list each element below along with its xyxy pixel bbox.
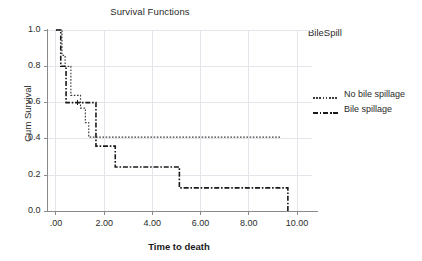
y-tick-label: 0.8 xyxy=(15,60,41,70)
x-tick-label: 2.00 xyxy=(84,218,124,228)
y-tick-label: 0.6 xyxy=(15,96,41,106)
legend-label: No bile spillage xyxy=(344,89,405,99)
x-tick-label: 8.00 xyxy=(229,218,269,228)
y-tick-label: 0.0 xyxy=(15,205,41,215)
survival-functions-chart: Survival Functions BileSpill Cum Surviva… xyxy=(0,0,422,261)
legend-item-1[interactable]: Bile spillage xyxy=(313,101,421,116)
x-tick-label: 4.00 xyxy=(132,218,172,228)
y-tick-label: 0.4 xyxy=(15,132,41,142)
legend-swatch-icon xyxy=(313,89,339,99)
axis-lines xyxy=(48,29,318,212)
legend: No bile spillageBile spillage xyxy=(313,86,421,116)
x-tick-label: .00 xyxy=(36,218,76,228)
legend-label: Bile spillage xyxy=(344,104,392,114)
legend-item-0[interactable]: No bile spillage xyxy=(313,86,421,101)
y-tick-label: 1.0 xyxy=(15,24,41,34)
series-line-1 xyxy=(56,30,288,212)
x-tick-label: 6.00 xyxy=(181,218,221,228)
censor-mark xyxy=(75,100,80,105)
y-tick-label: 0.2 xyxy=(15,169,41,179)
legend-swatch-icon xyxy=(313,104,339,114)
series-lines xyxy=(56,30,288,212)
series-line-0 xyxy=(56,30,281,137)
x-tick-label: 10.00 xyxy=(277,218,317,228)
